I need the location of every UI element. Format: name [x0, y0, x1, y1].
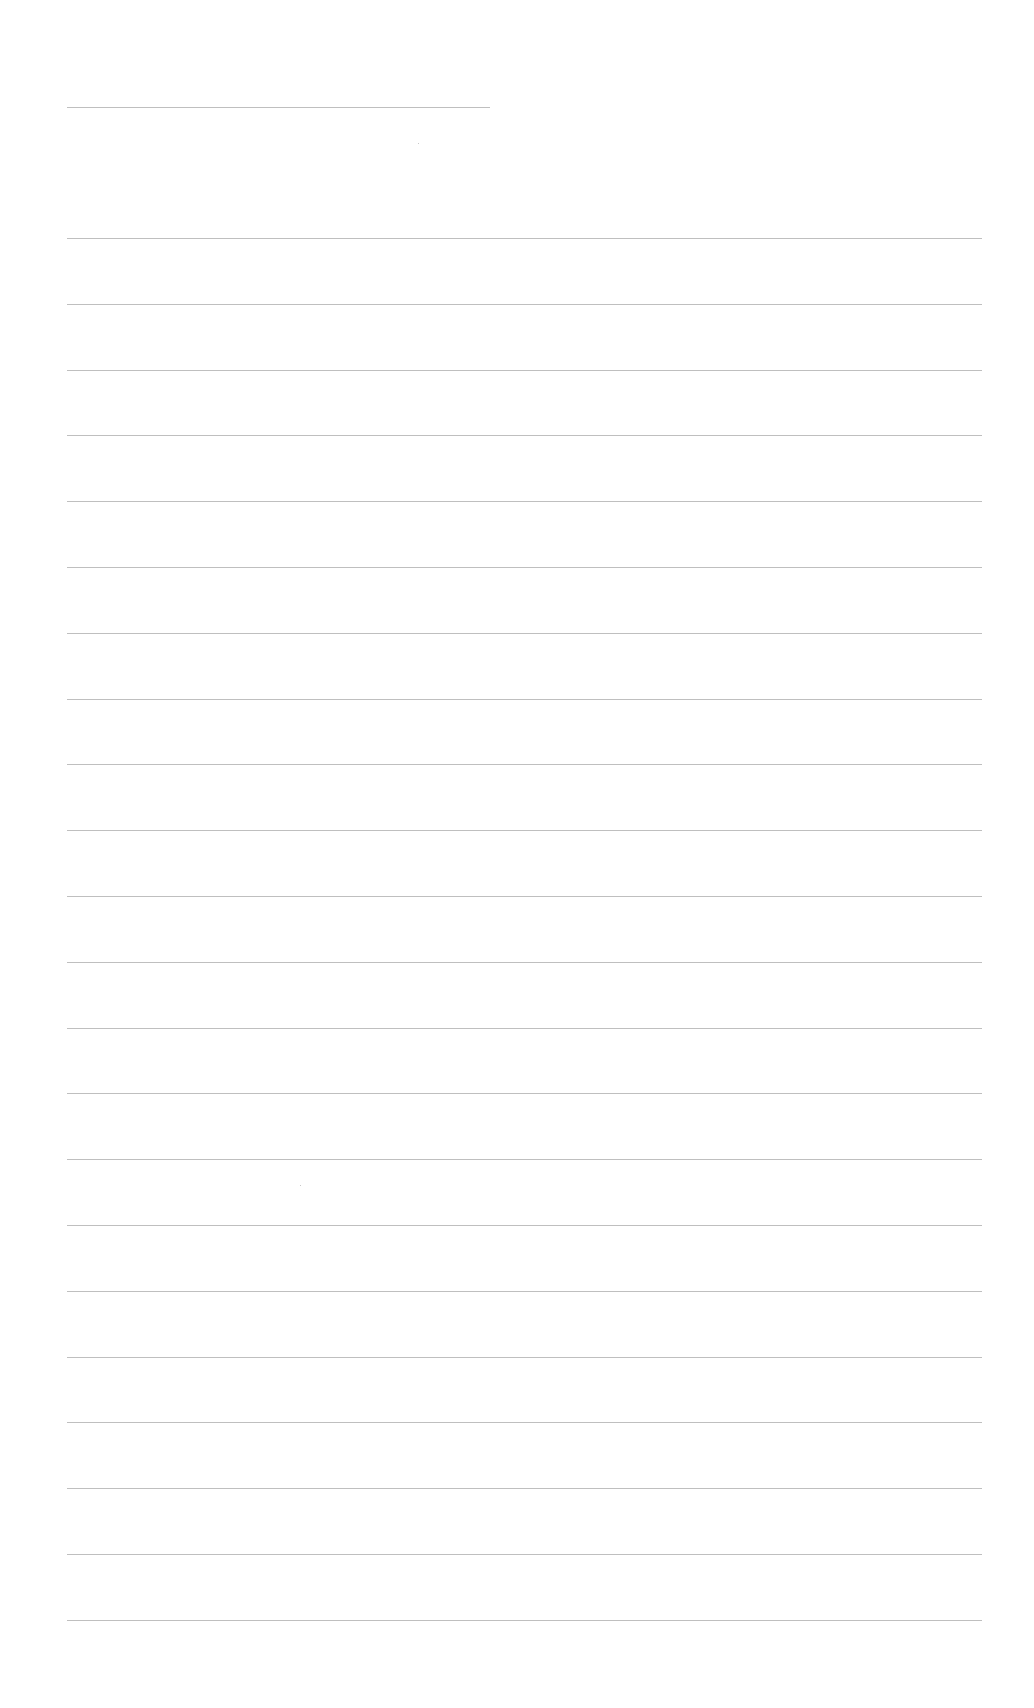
- body-rule: [67, 962, 982, 963]
- body-rule: [67, 435, 982, 436]
- body-rule: [67, 370, 982, 371]
- body-rule: [67, 633, 982, 634]
- body-rule: [67, 238, 982, 239]
- paper-speck: [300, 1185, 301, 1186]
- body-rules: [0, 0, 1034, 1708]
- body-rule: [67, 1620, 982, 1621]
- body-rule: [67, 567, 982, 568]
- body-rule: [67, 1093, 982, 1094]
- body-rule: [67, 501, 982, 502]
- body-rule: [67, 304, 982, 305]
- body-rule: [67, 699, 982, 700]
- body-rule: [67, 830, 982, 831]
- lined-page: [0, 0, 1034, 1708]
- body-rule: [67, 1357, 982, 1358]
- body-rule: [67, 1225, 982, 1226]
- body-rule: [67, 764, 982, 765]
- body-rule: [67, 896, 982, 897]
- body-rule: [67, 1291, 982, 1292]
- body-rule: [67, 1488, 982, 1489]
- body-rule: [67, 1554, 982, 1555]
- body-rule: [67, 1422, 982, 1423]
- paper-speck: [418, 143, 419, 144]
- body-rule: [67, 1159, 982, 1160]
- body-rule: [67, 1028, 982, 1029]
